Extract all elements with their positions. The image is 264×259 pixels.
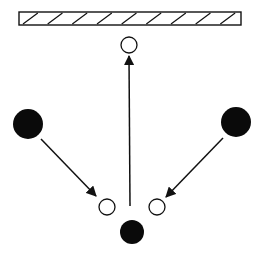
hatched-barrier bbox=[19, 12, 241, 25]
hatch-line bbox=[122, 13, 137, 24]
player-markers bbox=[13, 107, 251, 244]
open-position-markers bbox=[99, 37, 165, 215]
hatch-line bbox=[97, 13, 112, 24]
movement-arrows bbox=[41, 56, 223, 206]
hatch-line bbox=[220, 13, 235, 24]
bottom-player-circle bbox=[120, 220, 144, 244]
diagram-canvas bbox=[0, 0, 264, 259]
top-target-circle bbox=[121, 37, 137, 53]
center-arrow bbox=[129, 56, 130, 206]
hatch-line bbox=[48, 13, 63, 24]
hatch-line bbox=[72, 13, 87, 24]
right-player-circle bbox=[221, 107, 251, 137]
left-arrow bbox=[41, 139, 96, 196]
hatch-line bbox=[23, 13, 38, 24]
hatch-line bbox=[146, 13, 161, 24]
right-arrow bbox=[166, 138, 223, 197]
left-player-circle bbox=[13, 109, 43, 139]
right-target-circle bbox=[149, 199, 165, 215]
hatch-line bbox=[196, 13, 211, 24]
hatch-line bbox=[171, 13, 186, 24]
left-target-circle bbox=[99, 199, 115, 215]
